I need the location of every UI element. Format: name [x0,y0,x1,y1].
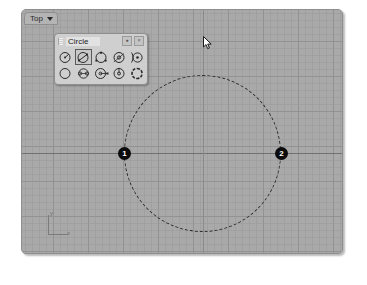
circle-tangent-curves-icon [130,51,144,64]
palette-title-label: Circle [66,37,100,46]
drag-grip-icon[interactable] [58,38,63,45]
circle-tangent-radius-icon [112,51,126,64]
viewport-title-label: Top [30,14,43,23]
axis-orientation-gizmo: y x [45,211,71,235]
circle-3-point-icon [94,51,108,64]
palette-tool-row-1 [57,49,145,65]
gizmo-y-label: y [50,210,53,216]
point-marker-1[interactable]: 1 [118,147,131,160]
palette-close-button[interactable]: × [134,36,144,46]
gizmo-y-axis [48,215,49,235]
circle-around-curve-tool[interactable] [57,65,74,81]
circle-geometry[interactable] [124,75,281,232]
circle-vertical-icon [112,67,126,80]
circle-deformable-icon [94,67,109,80]
gizmo-x-label: x [67,230,70,236]
palette-window-buttons: ● × [122,36,145,46]
circle-diameter-tool[interactable] [75,49,92,65]
circle-around-curve-icon [58,67,72,80]
circle-sketch-tool[interactable] [128,65,145,81]
circle-diameter-icon [76,51,90,64]
circle-center-radius-tool[interactable] [57,49,74,65]
gizmo-x-axis [48,234,68,235]
circle-tool-palette[interactable]: Circle ● × [54,33,148,85]
palette-title-bar[interactable]: Circle ● × [55,34,147,47]
arrow-cursor-icon [203,36,213,54]
chevron-down-icon[interactable] [47,17,53,21]
viewport-title-tab[interactable]: Top [24,12,58,25]
palette-tool-grid [55,47,147,84]
circle-tangent-to-curves-tool[interactable] [128,49,145,65]
circle-tangent-tangent-radius-tool[interactable] [110,49,127,65]
circle-fit-points-tool[interactable] [75,65,92,81]
circle-vertical-tool[interactable] [111,65,128,81]
modeling-viewport[interactable]: 1 2 y x Top Circle ● × [21,9,343,254]
circle-fit-points-icon [76,67,91,80]
circle-deformable-tool[interactable] [93,65,110,81]
circle-3-point-tool[interactable] [93,49,110,65]
palette-options-button[interactable]: ● [122,36,132,46]
circle-sketch-icon [130,67,144,80]
circle-center-radius-icon [58,51,72,64]
point-marker-2[interactable]: 2 [275,147,288,160]
palette-tool-row-2 [57,65,145,81]
